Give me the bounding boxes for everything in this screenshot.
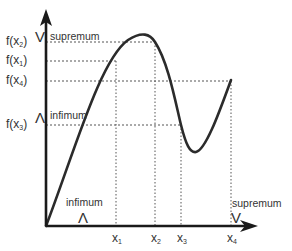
range-infimum-label: infimum xyxy=(50,110,87,121)
label-fx3: f(x3) xyxy=(6,118,27,131)
sup-inf-diagram: f(x2) f(x1) f(x4) f(x3) V supremum Λ inf… xyxy=(0,0,292,251)
domain-supremum-label: supremum xyxy=(232,198,282,209)
label-x2: x2 xyxy=(151,232,161,245)
range-supremum-symbol: V xyxy=(35,29,45,44)
label-fx4: f(x4) xyxy=(6,74,27,87)
label-fx2: f(x2) xyxy=(6,35,27,48)
label-x1: x1 xyxy=(112,232,122,245)
domain-infimum-label: infimum xyxy=(66,197,103,208)
label-x3: x3 xyxy=(177,232,187,245)
domain-infimum-symbol: Λ xyxy=(78,210,88,225)
vertical-guides xyxy=(116,42,231,226)
domain-supremum-symbol: V xyxy=(231,210,241,225)
range-supremum-label: supremum xyxy=(50,31,100,42)
range-infimum-symbol: Λ xyxy=(35,110,45,125)
label-fx1: f(x1) xyxy=(6,54,27,67)
label-x4: x4 xyxy=(227,232,237,245)
